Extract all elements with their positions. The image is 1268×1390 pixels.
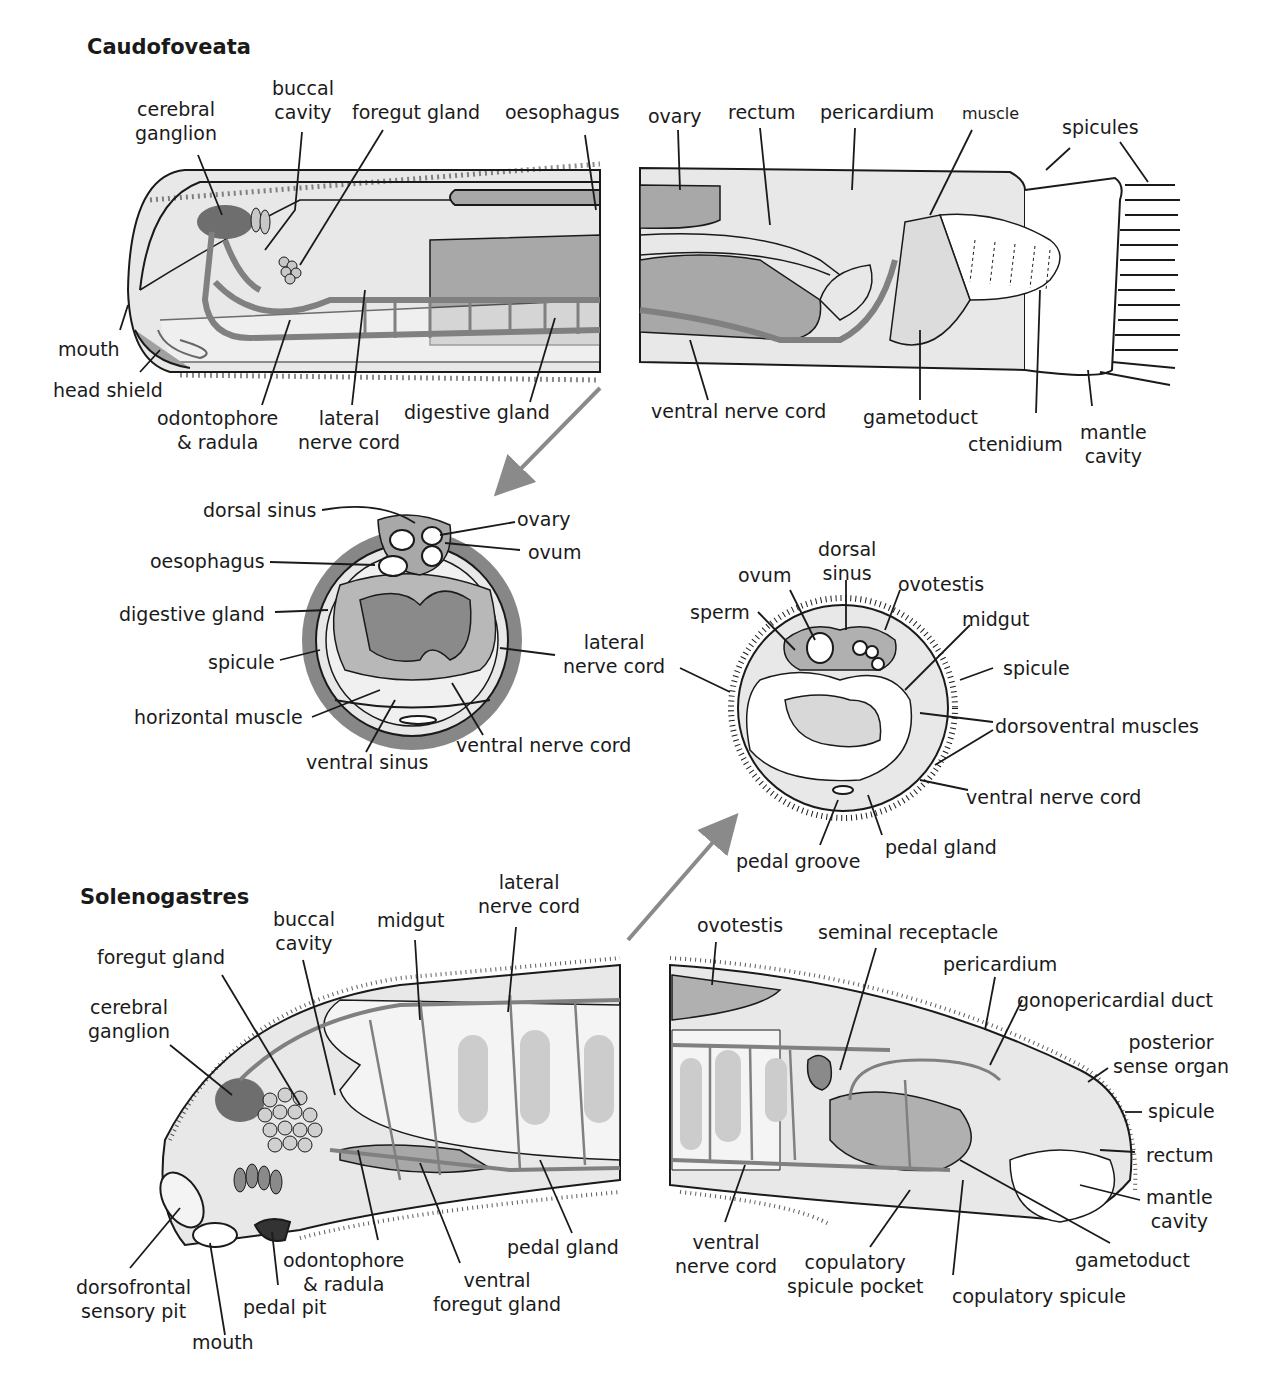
label-xs-lateral-nerve-cord: lateral nerve cord: [563, 630, 665, 678]
label-sol-midgut: midgut: [377, 908, 444, 932]
label-sol-lateral-nerve-cord: lateral nerve cord: [478, 870, 580, 918]
caudofoveata-anterior-body: [128, 170, 600, 372]
label-spicules: spicules: [1062, 115, 1139, 139]
anatomy-drawings: [0, 0, 1268, 1390]
label-sxs-ovum: ovum: [738, 563, 791, 587]
label-sxs-sperm: sperm: [690, 600, 750, 624]
label-sxs-pedal-gland: pedal gland: [885, 835, 997, 859]
label-cerebral-ganglion: cerebral ganglion: [135, 97, 217, 145]
label-pericardium: pericardium: [820, 100, 934, 124]
label-sol-ovotestis: ovotestis: [697, 913, 783, 937]
label-sol-cerebral-ganglion: cerebral ganglion: [88, 995, 170, 1043]
label-ventral-nerve-cord: ventral nerve cord: [651, 399, 826, 423]
label-sol-mouth: mouth: [192, 1330, 254, 1354]
label-rectum: rectum: [728, 100, 796, 124]
label-sxs-midgut: midgut: [962, 607, 1029, 631]
label-sxs-dorsoventral-muscles: dorsoventral muscles: [995, 714, 1199, 738]
label-oesophagus: oesophagus: [505, 100, 620, 124]
label-sxs-spicule: spicule: [1003, 656, 1070, 680]
label-odontophore-radula: odontophore & radula: [157, 406, 278, 454]
label-sol-gametoduct: gametoduct: [1075, 1248, 1190, 1272]
label-xs-ovum: ovum: [528, 540, 581, 564]
label-sol-pedal-pit: pedal pit: [243, 1295, 327, 1319]
label-sol-pedal-gland: pedal gland: [507, 1235, 619, 1259]
label-mouth: mouth: [58, 337, 120, 361]
solenogastres-cross-section: [731, 598, 955, 818]
label-sol-copulatory-spicule: copulatory spicule: [952, 1284, 1126, 1308]
label-foregut-gland: foregut gland: [352, 100, 480, 124]
label-sol-dorsofrontal-sensory-pit: dorsofrontal sensory pit: [76, 1275, 191, 1323]
label-sol-rectum: rectum: [1146, 1143, 1214, 1167]
label-ovary: ovary: [648, 104, 702, 128]
label-sol-mantle-cavity: mantle cavity: [1146, 1185, 1213, 1233]
label-sol-seminal-receptacle: seminal receptacle: [818, 920, 998, 944]
label-sol-buccal-cavity: buccal cavity: [273, 907, 335, 955]
label-sol-posterior-sense-organ: posterior sense organ: [1113, 1030, 1229, 1078]
label-xs-spicule: spicule: [208, 650, 275, 674]
label-sxs-pedal-groove: pedal groove: [736, 849, 860, 873]
solenogastres-title: Solenogastres: [80, 885, 249, 909]
label-digestive-gland: digestive gland: [404, 400, 550, 424]
label-xs-ventral-nerve-cord: ventral nerve cord: [456, 733, 631, 757]
label-muscle: muscle: [962, 102, 1019, 126]
label-buccal-cavity: buccal cavity: [272, 76, 334, 124]
label-sxs-ventral-nerve-cord: ventral nerve cord: [966, 785, 1141, 809]
label-mantle-cavity: mantle cavity: [1080, 420, 1147, 468]
label-xs-ventral-sinus: ventral sinus: [306, 750, 428, 774]
label-xs-ovary: ovary: [517, 507, 571, 531]
caudofoveata-title: Caudofoveata: [87, 35, 251, 59]
caudofoveata-posterior-body: [640, 168, 1122, 375]
label-xs-horizontal-muscle: horizontal muscle: [134, 705, 303, 729]
label-lateral-nerve-cord: lateral nerve cord: [298, 406, 400, 454]
label-xs-digestive-gland: digestive gland: [119, 602, 265, 626]
label-sol-pericardium: pericardium: [943, 952, 1057, 976]
label-xs-dorsal-sinus: dorsal sinus: [203, 498, 317, 522]
label-head-shield: head shield: [53, 378, 163, 402]
label-sol-gonopericardial-duct: gonopericardial duct: [1017, 988, 1213, 1012]
label-sol-spicule: spicule: [1148, 1099, 1215, 1123]
label-sol-ventral-foregut-gland: ventral foregut gland: [433, 1268, 561, 1316]
label-sol-copulatory-spicule-pocket: copulatory spicule pocket: [787, 1250, 923, 1298]
label-ctenidium: ctenidium: [968, 432, 1063, 456]
label-sol-foregut-gland: foregut gland: [97, 945, 225, 969]
label-sxs-ovotestis: ovotestis: [898, 572, 984, 596]
label-sol-ventral-nerve-cord: ventral nerve cord: [675, 1230, 777, 1278]
label-sol-odontophore-radula: odontophore & radula: [283, 1248, 404, 1296]
label-xs-oesophagus: oesophagus: [150, 549, 265, 573]
caudofoveata-cross-section: [302, 515, 522, 750]
label-gametoduct: gametoduct: [863, 405, 978, 429]
label-sxs-dorsal-sinus: dorsal sinus: [818, 537, 876, 585]
